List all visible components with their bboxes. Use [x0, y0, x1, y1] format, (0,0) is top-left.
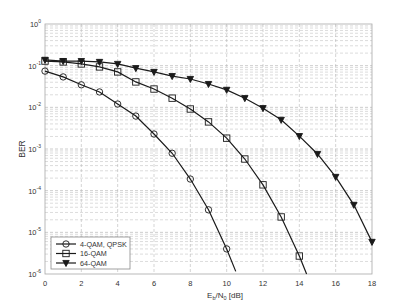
x-tick-label: 10 [222, 279, 230, 288]
legend: 4-QAM, QPSK16-QAM64-QAM [51, 237, 130, 269]
series-64-qam [42, 57, 375, 245]
x-tick-label: 16 [331, 279, 339, 288]
triangle-down-marker [242, 96, 248, 102]
y-axis-ticks: 10010-110-210-310-410-510-6 [28, 18, 41, 279]
x-tick-label: 8 [188, 279, 192, 288]
y-tick-label: 10-6 [28, 268, 41, 279]
x-tick-label: 12 [259, 279, 267, 288]
ber-chart: 024681012141618 10010-110-210-310-410-51… [0, 0, 397, 308]
x-tick-label: 14 [295, 279, 303, 288]
legend-label: 16-QAM [80, 249, 107, 258]
legend-item: 4-QAM, QPSK [56, 240, 127, 249]
triangle-down-marker [369, 239, 375, 245]
x-axis-label-text: Eb/N0 [dB] [207, 291, 243, 301]
x-tick-label: 18 [368, 279, 376, 288]
x-tick-label: 2 [79, 279, 83, 288]
legend-item: 16-QAM [56, 249, 107, 258]
x-tick-label: 4 [116, 279, 120, 288]
y-tick-label: 10-2 [28, 101, 41, 112]
y-axis-label: BER [17, 140, 27, 157]
x-axis-label: Eb/N0 [dB] [207, 291, 243, 301]
triangle-down-marker [260, 106, 266, 112]
x-tick-label: 6 [152, 279, 156, 288]
y-tick-label: 10-3 [28, 143, 41, 154]
x-tick-label: 0 [43, 279, 47, 288]
y-tick-label: 10-4 [28, 185, 41, 196]
x-axis-ticks: 024681012141618 [43, 279, 376, 288]
legend-label: 4-QAM, QPSK [80, 240, 127, 249]
legend-label: 64-QAM [80, 259, 107, 268]
y-tick-label: 10-5 [28, 226, 41, 237]
y-tick-label: 100 [30, 18, 41, 29]
y-tick-label: 10-1 [28, 60, 41, 71]
chart-canvas: 024681012141618 10010-110-210-310-410-51… [0, 0, 397, 308]
